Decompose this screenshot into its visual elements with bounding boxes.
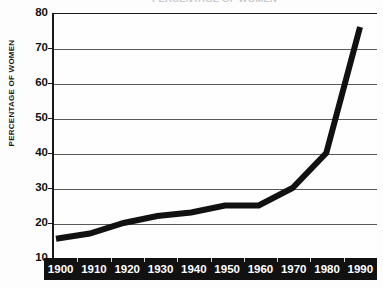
x-axis-tick-separator [77, 258, 78, 262]
y-axis-tick-labels: 1020304050607080 [10, 13, 48, 258]
x-axis-tick-separator [244, 258, 245, 262]
gridline-40 [54, 154, 377, 155]
x-axis-tick-separator [144, 258, 145, 262]
gridline-60 [54, 84, 377, 85]
x-axis-tick-separator [177, 258, 178, 262]
chart-title: PERCENTAGE OF WOMEN [52, 0, 377, 4]
x-axis-tick-label: 1980 [310, 263, 343, 275]
x-axis-tick-separator [111, 258, 112, 262]
x-axis-tick-label: 1940 [177, 263, 210, 275]
gridline-30 [54, 189, 377, 190]
x-axis-tick-label: 1900 [44, 263, 77, 275]
x-axis-tick-separator [277, 258, 278, 262]
x-axis-tick-label: 1950 [211, 263, 244, 275]
plot-area [52, 13, 377, 258]
y-axis-tick-label: 30 [14, 182, 48, 193]
x-axis-tick-separator [310, 258, 311, 262]
gridline-50 [54, 119, 377, 120]
y-axis-tick-label: 50 [14, 112, 48, 123]
y-axis-tick-label: 70 [14, 42, 48, 53]
gridline-70 [54, 49, 377, 50]
x-axis-band: 1900191019201930194019501960197019801990 [44, 258, 377, 280]
gridline-20 [54, 224, 377, 225]
y-axis-tick-label: 10 [14, 252, 48, 263]
y-axis-tick-label: 40 [14, 147, 48, 158]
y-axis-tick-label: 60 [14, 77, 48, 88]
chart-screenshot: PERCENTAGE OF WOMEN PERCENTAGE OF WOMEN … [0, 0, 383, 288]
x-axis-tick-label: 1930 [144, 263, 177, 275]
y-axis-tick-label: 80 [14, 7, 48, 18]
x-axis-tick-label: 1960 [244, 263, 277, 275]
x-axis-tick-label: 1910 [77, 263, 110, 275]
x-axis-tick-separator [211, 258, 212, 262]
x-axis-tick-label: 1920 [111, 263, 144, 275]
x-axis-tick-label: 1990 [344, 263, 377, 275]
x-axis-tick-separator [344, 258, 345, 262]
x-axis-tick-label: 1970 [277, 263, 310, 275]
y-axis-tick-label: 20 [14, 217, 48, 228]
